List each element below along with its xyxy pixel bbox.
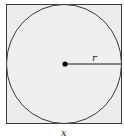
center-dot xyxy=(62,61,67,66)
side-label: x xyxy=(61,127,67,138)
diagram: r x xyxy=(0,0,124,140)
